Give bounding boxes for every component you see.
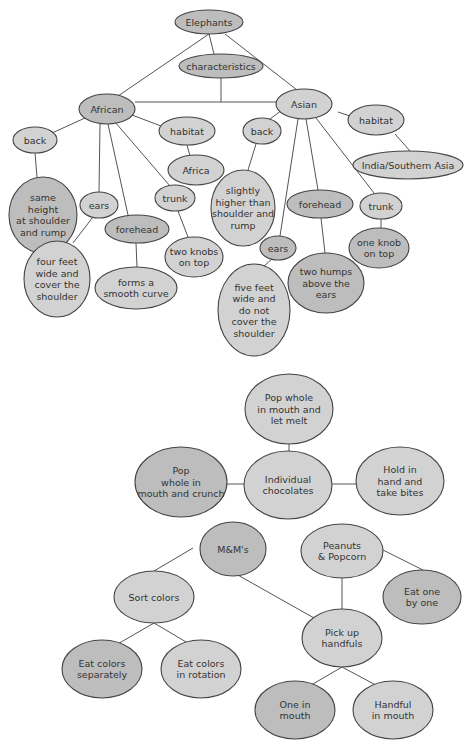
node-label: on top [179, 257, 209, 268]
node-label: cover the [34, 279, 79, 290]
node-four-feet: four feetwide andcover theshoulder [24, 241, 90, 317]
node-individual-chocolates: Individualchocolates [244, 451, 332, 519]
node-habitat-african: habitat [159, 117, 215, 145]
node-ears-african: ears [80, 192, 118, 218]
node-label: let melt [271, 415, 308, 426]
node-crunch: Popwhole inmouth and crunch [135, 447, 227, 517]
node-label: one knob [357, 237, 401, 248]
node-label: Handful [374, 699, 411, 710]
node-label: India/Southern Asia [362, 160, 455, 171]
node-label: handfuls [322, 638, 363, 649]
node-back-african: back [13, 127, 57, 153]
node-label: habitat [170, 126, 204, 137]
connector-line [178, 211, 188, 237]
node-label: back [24, 135, 47, 146]
node-label: rump [230, 220, 255, 231]
node-slightly-higher: slightlyhigher thanshoulder andrump [211, 170, 275, 246]
node-label: above the [302, 278, 350, 289]
node-label: wide and [232, 293, 275, 304]
node-label: African [90, 104, 123, 115]
node-label: forehead [299, 199, 341, 210]
node-label: whole in [161, 477, 201, 488]
node-label: Pick up [325, 627, 359, 638]
node-let-melt: Pop wholein mouth andlet melt [245, 374, 333, 444]
connector-line [136, 243, 137, 267]
node-label: M&M's [217, 544, 248, 555]
node-same-height: sameheightat shoulderand rump [9, 177, 77, 253]
node-label: and rump [20, 227, 66, 238]
node-label: two humps [300, 266, 353, 277]
node-label: One in [279, 699, 310, 710]
node-label: Individual [265, 474, 311, 485]
node-label: Eat one [404, 586, 440, 597]
node-back-asian: back [243, 118, 281, 144]
node-label: trunk [162, 193, 188, 204]
node-label: ears [89, 200, 110, 211]
node-handful-in-mouth: Handfulin mouth [353, 681, 433, 739]
connector-line [132, 115, 161, 126]
connector-line [383, 550, 423, 570]
node-label: ears [268, 243, 289, 254]
node-trunk-asian: trunk [360, 193, 402, 219]
node-label: five feet [234, 282, 274, 293]
node-label: in mouth and [257, 404, 320, 415]
node-label: wide and [35, 268, 78, 279]
node-label: Africa [182, 165, 209, 176]
node-label: shoulder and [212, 208, 274, 219]
node-label: do not [239, 305, 270, 316]
node-elephants: Elephants [175, 10, 243, 34]
node-label: cover the [231, 316, 276, 327]
node-label: Asian [291, 99, 317, 110]
node-forehead-asian: forehead [287, 190, 353, 218]
node-trunk-african: trunk [155, 185, 195, 211]
node-label: forehead [116, 224, 158, 235]
node-asian: Asian [276, 89, 332, 119]
node-label: forms a [118, 277, 154, 288]
node-label: two knobs [170, 246, 219, 257]
node-label: mouth and crunch [137, 488, 224, 499]
node-label: by one [406, 597, 439, 608]
node-five-feet: five feetwide anddo notcover theshoulder [218, 264, 290, 356]
node-label: chocolates [262, 485, 313, 496]
node-smooth-curve: forms asmooth curve [95, 267, 177, 309]
node-label: Eat colors [178, 658, 225, 669]
node-label: slightly [226, 185, 261, 196]
node-sort-colors: Sort colors [114, 571, 194, 623]
connector-line [321, 218, 325, 253]
connector-line [248, 144, 256, 170]
node-india: India/Southern Asia [353, 151, 463, 179]
connector-line [236, 574, 314, 618]
node-label: Pop [172, 465, 189, 476]
connector-line [187, 145, 190, 156]
nodes-layer: ElephantscharacteristicsAfricanAsianhabi… [9, 10, 463, 739]
node-eat-one-by-one: Eat oneby one [383, 570, 461, 624]
node-label: on top [364, 248, 394, 259]
node-label: separately [77, 669, 128, 680]
connector-line [306, 119, 318, 190]
node-label: hand and [378, 476, 423, 487]
connector-line [52, 118, 85, 133]
node-take-bites: Hold inhand andtake bites [356, 447, 444, 515]
connector-line [280, 119, 298, 236]
node-habitat-asian: habitat [348, 105, 404, 135]
node-label: mouth [280, 710, 311, 721]
node-label: & Popcorn [318, 551, 366, 562]
connector-line [264, 259, 272, 266]
node-label: shoulder [36, 291, 77, 302]
node-africa: Africa [168, 155, 224, 185]
node-characteristics: characteristics [179, 54, 263, 78]
node-label: characteristics [186, 61, 256, 72]
node-mms: M&M's [200, 522, 266, 576]
node-two-knobs: two knobson top [165, 237, 223, 277]
node-label: Pop whole [265, 392, 313, 403]
node-one-knob: one knobon top [349, 228, 409, 268]
node-label: in rotation [177, 669, 226, 680]
node-label: higher than [215, 197, 270, 208]
node-label: Sort colors [129, 592, 180, 603]
node-label: habitat [359, 115, 393, 126]
node-label: smooth curve [103, 288, 168, 299]
node-label: Eat colors [79, 658, 126, 669]
node-ears-asian: ears [260, 236, 296, 260]
connector-line [99, 124, 100, 192]
node-one-in-mouth: One inmouth [255, 681, 335, 739]
